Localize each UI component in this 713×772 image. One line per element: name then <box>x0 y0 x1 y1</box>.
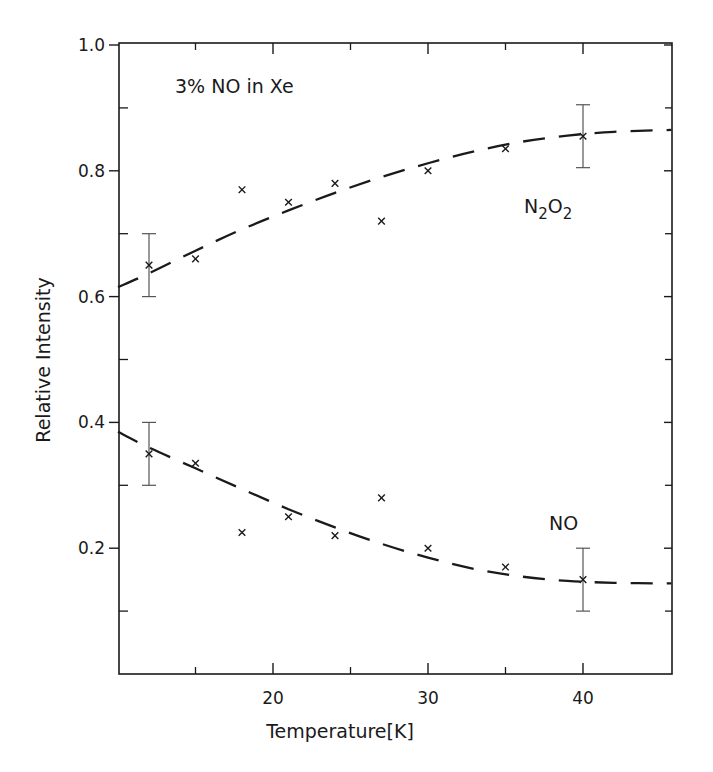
x-marker-n2o2 <box>378 218 385 225</box>
x-marker-n2o2 <box>425 168 432 175</box>
series-label-no: NO <box>549 512 578 534</box>
x-marker-n2o2 <box>192 256 199 263</box>
x-tick-label: 40 <box>572 688 594 708</box>
x-marker-n2o2 <box>285 199 292 206</box>
fit-curve-no <box>118 432 671 584</box>
relative-intensity-chart: 2030400.20.40.60.81.0 3% NO in Xe N2O2 N… <box>0 0 713 772</box>
y-tick-label: 0.4 <box>78 412 105 432</box>
x-marker-no <box>425 545 432 552</box>
fit-curves <box>118 130 671 584</box>
x-tick-label: 30 <box>417 688 439 708</box>
x-marker-no <box>332 532 339 539</box>
chart-title: 3% NO in Xe <box>175 75 294 97</box>
x-marker-no <box>502 564 509 571</box>
x-axis-title: Temperature[K] <box>265 720 414 742</box>
x-marker-n2o2 <box>332 180 339 187</box>
x-tick-label: 20 <box>262 688 284 708</box>
data-points <box>146 133 587 583</box>
plot-border <box>119 43 672 674</box>
error-bars <box>142 105 590 611</box>
series-label-n2o2: N2O2 <box>524 195 572 223</box>
y-tick-label: 0.2 <box>78 538 105 558</box>
x-marker-n2o2 <box>502 145 509 152</box>
y-tick-label: 0.8 <box>78 161 105 181</box>
x-marker-no <box>239 529 246 536</box>
x-marker-no <box>378 495 385 502</box>
fit-curve-n2o2 <box>118 130 671 287</box>
plot-frame <box>119 43 672 674</box>
x-marker-no <box>285 513 292 520</box>
y-tick-label: 1.0 <box>78 35 105 55</box>
y-tick-label: 0.6 <box>78 287 105 307</box>
x-marker-n2o2 <box>239 186 246 193</box>
y-axis-title: Relative Intensity <box>32 277 54 442</box>
x-marker-no <box>192 460 199 467</box>
